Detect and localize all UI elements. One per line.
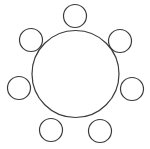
canvas-background bbox=[0, 0, 150, 149]
diagram-canvas bbox=[0, 0, 150, 149]
radial-circle-diagram bbox=[0, 0, 150, 149]
